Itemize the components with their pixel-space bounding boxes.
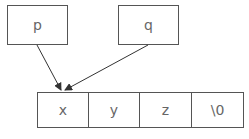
arrow-p-to-x — [37, 45, 61, 90]
arrows-layer — [0, 0, 249, 139]
arrow-q-to-x — [65, 45, 148, 90]
pointer-diagram: p q x y z \0 — [0, 0, 249, 139]
